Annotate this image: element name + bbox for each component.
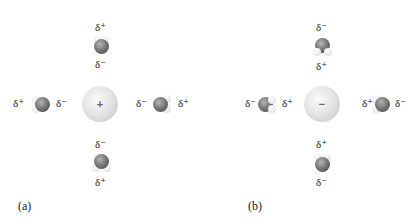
top-water-far-charge: δ⁺	[95, 22, 106, 33]
right-water-molecule	[372, 95, 390, 113]
panel-b: δ⁻ δ⁺ δ⁻ δ⁺ − δ⁺ δ⁻ δ⁺ δ⁻ (b)	[210, 0, 420, 221]
left-water-near-charge: δ⁺	[282, 98, 293, 109]
bottom-water-far-charge: δ⁺	[95, 177, 106, 188]
top-water-near-charge: δ⁻	[95, 59, 106, 70]
top-water-near-charge: δ⁺	[316, 61, 327, 72]
top-water-far-charge: δ⁻	[316, 22, 327, 33]
left-water-far-charge: δ⁺	[13, 98, 24, 109]
hydrogen-atom	[268, 105, 276, 113]
anion-sphere: −	[304, 86, 340, 122]
bottom-water-far-charge: δ⁻	[316, 177, 327, 188]
top-water-molecule	[92, 36, 110, 54]
left-water-near-charge: δ⁻	[56, 98, 67, 109]
bottom-water-molecule	[313, 154, 331, 172]
hydrogen-atom	[268, 96, 276, 104]
panel-b-label: (b)	[248, 200, 262, 212]
left-water-molecule	[258, 95, 276, 113]
oxygen-atom	[375, 97, 390, 112]
panel-a: δ⁺ δ⁻ δ⁺ δ⁻ + δ⁻ δ⁺ δ⁻ δ⁺ (a)	[0, 0, 210, 221]
panel-a-label: (a)	[18, 200, 31, 212]
bottom-water-near-charge: δ⁻	[95, 139, 106, 150]
oxygen-atom	[35, 97, 50, 112]
hydrogen-atom	[313, 48, 321, 56]
right-water-far-charge: δ⁻	[395, 98, 406, 109]
oxygen-atom	[94, 154, 109, 169]
cation-sphere: +	[82, 86, 118, 122]
oxygen-atom	[94, 39, 109, 54]
oxygen-atom	[315, 157, 330, 172]
bottom-water-near-charge: δ⁺	[316, 139, 327, 150]
oxygen-atom	[153, 97, 168, 112]
top-water-molecule	[313, 38, 331, 56]
right-water-near-charge: δ⁻	[136, 98, 147, 109]
positive-sign: +	[97, 99, 103, 110]
right-water-far-charge: δ⁺	[178, 98, 189, 109]
left-water-far-charge: δ⁻	[245, 98, 256, 109]
negative-sign: −	[319, 99, 325, 110]
bottom-water-molecule	[92, 154, 110, 172]
hydrogen-atom	[324, 48, 332, 56]
left-water-molecule	[32, 95, 50, 113]
right-water-molecule	[153, 95, 171, 113]
